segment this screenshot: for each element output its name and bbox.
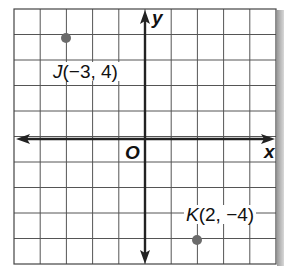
point-k-name: K [186, 204, 199, 225]
y-axis-label: y [152, 8, 163, 27]
point-j-label: J(−3, 4) [51, 62, 120, 81]
point-k-coords: (2, −4) [199, 204, 254, 225]
point-j [61, 33, 71, 43]
point-j-coords: (−3, 4) [63, 61, 118, 82]
point-k-label: K(2, −4) [184, 205, 256, 224]
point-j-name: J [53, 61, 63, 82]
x-axis-label: x [264, 142, 275, 161]
point-k [192, 235, 202, 245]
origin-label: O [125, 143, 140, 162]
coordinate-plane [0, 0, 289, 266]
